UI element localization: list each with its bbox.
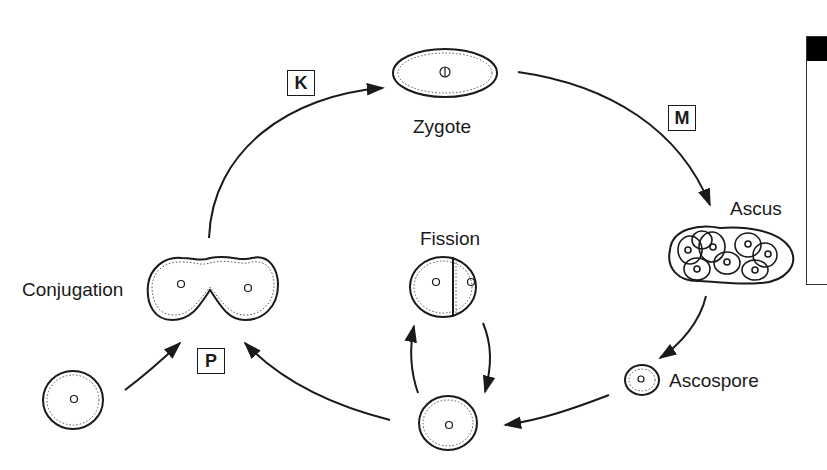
label-zygote: Zygote <box>413 116 471 138</box>
zygote-cell <box>393 49 497 97</box>
vegetative-cell <box>419 396 477 450</box>
step-label-p: P <box>197 348 225 374</box>
arrow-k <box>209 88 383 238</box>
conjugation-cell <box>148 257 278 320</box>
step-label-k: K <box>287 70 315 96</box>
ascospore-cell <box>625 365 659 395</box>
step-label-m: M <box>668 105 696 131</box>
arrow-haploid-to-conjugation <box>125 343 180 390</box>
ascus-cell <box>669 227 793 284</box>
fission-cell <box>410 257 476 317</box>
arrow-p <box>245 343 390 420</box>
label-conjugation: Conjugation <box>22 279 123 301</box>
label-fission: Fission <box>420 228 480 250</box>
arrow-ascus-to-ascospore <box>660 296 706 358</box>
arrow-vegetative-to-fission <box>411 326 418 393</box>
haploid-cell <box>43 371 103 429</box>
arrow-fission-to-vegetative <box>483 323 490 392</box>
side-panel <box>806 36 827 285</box>
arrow-ascospore-to-vegetative <box>505 395 609 425</box>
arrow-m <box>518 72 710 205</box>
label-ascospore: Ascospore <box>669 370 759 392</box>
label-ascus: Ascus <box>730 198 782 220</box>
side-panel-header <box>807 37 827 61</box>
